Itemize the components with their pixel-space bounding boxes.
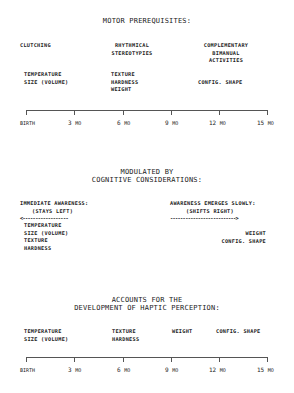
property-texture-hardness-weight: TEXTURE HARDNESS WEIGHT xyxy=(111,71,138,94)
tick-label-3mo-2: 3 MO xyxy=(68,366,81,375)
motor-complementary-bimanual: COMPLEMENTARY BIMANUAL ACTIVITIES xyxy=(190,42,262,65)
tick-label-9mo-2: 9 MO xyxy=(165,366,178,375)
tick-label-3mo: 3 MO xyxy=(68,119,81,128)
motor-rhythmical-stereotypies: RHYTHMICAL STEREOTYPIES xyxy=(100,42,164,57)
section2-title: MODULATED BY COGNITIVE CONSIDERATIONS: xyxy=(0,169,294,184)
slow-properties-list: WEIGHT CONFIG. SHAPE xyxy=(200,230,266,245)
right-arrow: --------------------------> xyxy=(170,215,238,223)
tick-label-6mo-2: 6 MO xyxy=(117,366,130,375)
tick-label-6mo: 6 MO xyxy=(117,119,130,128)
tick-label-birth-2: BIRTH xyxy=(20,366,35,375)
tick-label-15mo-2: 15 MO xyxy=(257,366,274,375)
section1-title: MOTOR PREREQUISITES: xyxy=(0,18,294,26)
final-temperature-size: TEMPERATURE SIZE (VOLUME) xyxy=(24,328,69,343)
property-config-shape: CONFIG. SHAPE xyxy=(198,79,243,87)
motor-clutching: CLUTCHING xyxy=(20,42,51,50)
final-weight: WEIGHT xyxy=(172,328,193,336)
tick-label-birth: BIRTH xyxy=(20,119,35,128)
immediate-awareness-heading: IMMEDIATE AWARENESS: xyxy=(20,200,88,208)
tick-label-15mo: 15 MO xyxy=(257,119,274,128)
section3-title: ACCOUNTS FOR THE DEVELOPMENT OF HAPTIC P… xyxy=(0,297,294,312)
final-texture-hardness: TEXTURE HARDNESS xyxy=(112,328,139,343)
immediate-properties-list: TEMPERATURE SIZE (VOLUME) TEXTURE HARDNE… xyxy=(24,222,69,252)
tick-label-12mo: 12 MO xyxy=(209,119,226,128)
property-temperature-size: TEMPERATURE SIZE (VOLUME) xyxy=(24,71,69,86)
tick-label-9mo: 9 MO xyxy=(165,119,178,128)
tick-label-12mo-2: 12 MO xyxy=(209,366,226,375)
final-config-shape: CONFIG. SHAPE xyxy=(216,328,261,336)
awareness-slowly-heading: AWARENESS EMERGES SLOWLY: xyxy=(170,200,256,208)
